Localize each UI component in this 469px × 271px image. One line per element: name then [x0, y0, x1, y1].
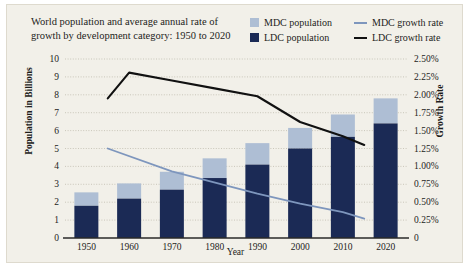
x-axis-tick: 1960 [120, 242, 139, 252]
legend-label-ldc-growth: LDC growth rate [372, 32, 440, 43]
x-axis-tick: 2010 [333, 242, 352, 252]
y-axis-tick-left: 3 [54, 179, 59, 189]
y-axis-tick-left: 6 [54, 126, 59, 136]
x-axis-tick: 2000 [291, 242, 310, 252]
legend-column-lines: MDC growth rate LDC growth rate [354, 15, 443, 45]
y-axis-label-left: Population in Billions [24, 66, 34, 156]
legend-item-mdc-population: MDC population [250, 15, 332, 30]
legend-label-mdc-growth: MDC growth rate [372, 17, 443, 28]
y-axis-tick-right: 1.00% [414, 161, 439, 171]
bar-segment-ldc-population [117, 199, 141, 238]
bar-segment-mdc-population [288, 128, 312, 149]
y-axis-tick-right: 2.00% [414, 90, 439, 100]
plot-area-wrapper: Population in Billions Growth Rate Year … [7, 51, 462, 264]
legend-label-mdc-population: MDC population [264, 17, 332, 28]
chart-figure: World population and average annual rate… [6, 4, 463, 263]
x-axis-tick: 2020 [376, 242, 395, 252]
y-axis-tick-left: 2 [54, 197, 59, 207]
y-axis-tick-right: 0.25% [414, 215, 439, 225]
y-axis-tick-left: 9 [54, 72, 59, 82]
line-ldc-growth-rate [108, 73, 365, 145]
chart-header: World population and average annual rate… [7, 5, 462, 51]
x-axis-label: Year [7, 247, 464, 257]
y-axis-tick-left: 1 [54, 215, 59, 225]
bar-segment-mdc-population [374, 98, 398, 123]
chart-title: World population and average annual rate… [31, 15, 246, 42]
mdc-growth-line-icon [354, 22, 367, 24]
y-axis-tick-right: 0.50% [414, 197, 439, 207]
plot-area: 01234567891000.25%0.50%0.75%1.00%1.25%1.… [65, 59, 407, 238]
line-mdc-growth-rate [108, 149, 365, 219]
y-axis-tick-left: 4 [54, 161, 59, 171]
chart-canvas [65, 59, 407, 238]
legend-item-ldc-population: LDC population [250, 30, 332, 45]
y-axis-tick-right: 1.25% [414, 144, 439, 154]
bar-segment-ldc-population [331, 137, 355, 238]
ldc-population-swatch-icon [250, 33, 259, 42]
y-axis-tick-right: 1.50% [414, 126, 439, 136]
y-axis-tick-right: 2.25% [414, 72, 439, 82]
bar-segment-ldc-population [245, 165, 269, 238]
chart-legend: MDC population LDC population MDC growth… [250, 15, 460, 47]
x-axis-tick: 1980 [205, 242, 224, 252]
bar-segment-mdc-population [117, 183, 141, 198]
bar-segment-mdc-population [203, 158, 227, 178]
bar-segment-mdc-population [74, 192, 98, 205]
ldc-growth-line-icon [354, 37, 367, 39]
legend-item-ldc-growth: LDC growth rate [354, 30, 443, 45]
legend-label-ldc-population: LDC population [264, 32, 329, 43]
y-axis-tick-right: 2.50% [414, 54, 439, 64]
y-axis-tick-left: 7 [54, 108, 59, 118]
x-axis-tick: 1990 [248, 242, 267, 252]
bar-segment-ldc-population [203, 178, 227, 238]
y-axis-tick-left: 10 [50, 54, 60, 64]
y-axis-tick-right: 0 [414, 233, 419, 243]
legend-column-bars: MDC population LDC population [250, 15, 332, 45]
y-axis-tick-right: 0.75% [414, 179, 439, 189]
mdc-population-swatch-icon [250, 18, 259, 27]
x-axis-tick: 1950 [77, 242, 96, 252]
bar-segment-ldc-population [74, 206, 98, 238]
bar-segment-ldc-population [288, 149, 312, 239]
y-axis-tick-left: 8 [54, 90, 59, 100]
y-axis-tick-right: 1.75% [414, 108, 439, 118]
y-axis-tick-left: 5 [54, 144, 59, 154]
bar-segment-ldc-population [160, 190, 184, 238]
y-axis-tick-left: 0 [54, 233, 59, 243]
x-axis-tick: 1970 [162, 242, 181, 252]
legend-item-mdc-growth: MDC growth rate [354, 15, 443, 30]
bar-segment-mdc-population [245, 143, 269, 164]
bar-segment-ldc-population [374, 123, 398, 238]
